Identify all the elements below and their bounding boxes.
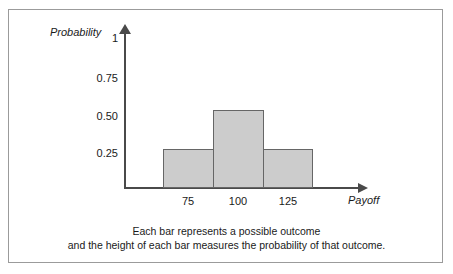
bar-75 [163,149,214,188]
caption-line-1: Each bar represents a possible outcome [16,224,437,238]
bar-100 [213,110,264,188]
x-tick-label-75: 75 [182,195,194,207]
x-tick-label-125: 125 [279,195,297,207]
figure-caption: Each bar represents a possible outcome a… [16,224,437,252]
y-tick-label-075: 0.75 [82,73,118,84]
bar-group [163,32,313,188]
y-axis-line [124,32,126,189]
x-axis-tick-labels: 75 100 125 [0,195,453,211]
y-tick-label-1: 1 [82,33,118,44]
y-axis-arrowhead-icon [119,24,131,34]
x-tick-label-100: 100 [229,195,247,207]
x-axis-arrowhead-icon [358,183,368,193]
bar-125 [263,149,313,188]
caption-line-2: and the height of each bar measures the … [16,238,437,252]
figure-container: Probability Payoff 1 0.75 0.50 0.25 75 1… [0,0,453,274]
y-tick-label-025: 0.25 [82,148,118,159]
y-tick-label-050: 0.50 [82,111,118,122]
